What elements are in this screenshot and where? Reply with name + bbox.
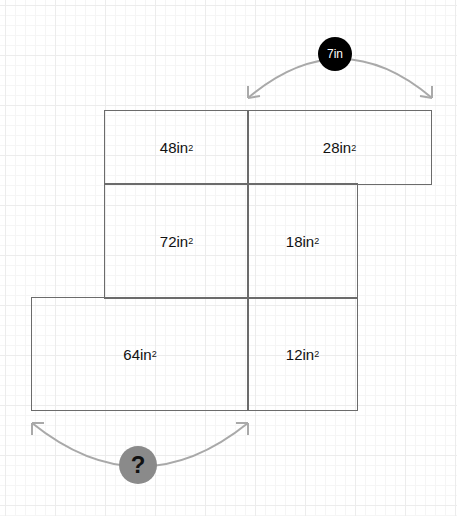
area-label: 48in bbox=[160, 139, 188, 156]
area-exponent: 2 bbox=[152, 349, 157, 359]
area-region-r5: 64in2 bbox=[31, 297, 249, 411]
area-label: 18in bbox=[286, 233, 314, 250]
area-region-r4: 18in2 bbox=[247, 183, 358, 299]
area-label: 12in bbox=[286, 346, 314, 363]
top-measure-label: 7in bbox=[327, 47, 343, 61]
area-exponent: 2 bbox=[314, 349, 319, 359]
area-region-r1: 48in2 bbox=[104, 110, 249, 185]
area-label: 72in bbox=[160, 233, 188, 250]
area-exponent: 2 bbox=[351, 143, 356, 153]
unknown-measure-label: ? bbox=[131, 451, 146, 479]
area-label: 64in bbox=[123, 346, 151, 363]
area-region-r2: 28in2 bbox=[247, 110, 432, 185]
area-exponent: 2 bbox=[188, 143, 193, 153]
area-label: 28in bbox=[323, 139, 351, 156]
unknown-measure-badge: ? bbox=[119, 446, 157, 484]
area-exponent: 2 bbox=[188, 236, 193, 246]
area-region-r6: 12in2 bbox=[247, 297, 358, 411]
top-measure-badge: 7in bbox=[318, 37, 352, 71]
area-region-r3: 72in2 bbox=[104, 183, 249, 299]
area-exponent: 2 bbox=[314, 236, 319, 246]
